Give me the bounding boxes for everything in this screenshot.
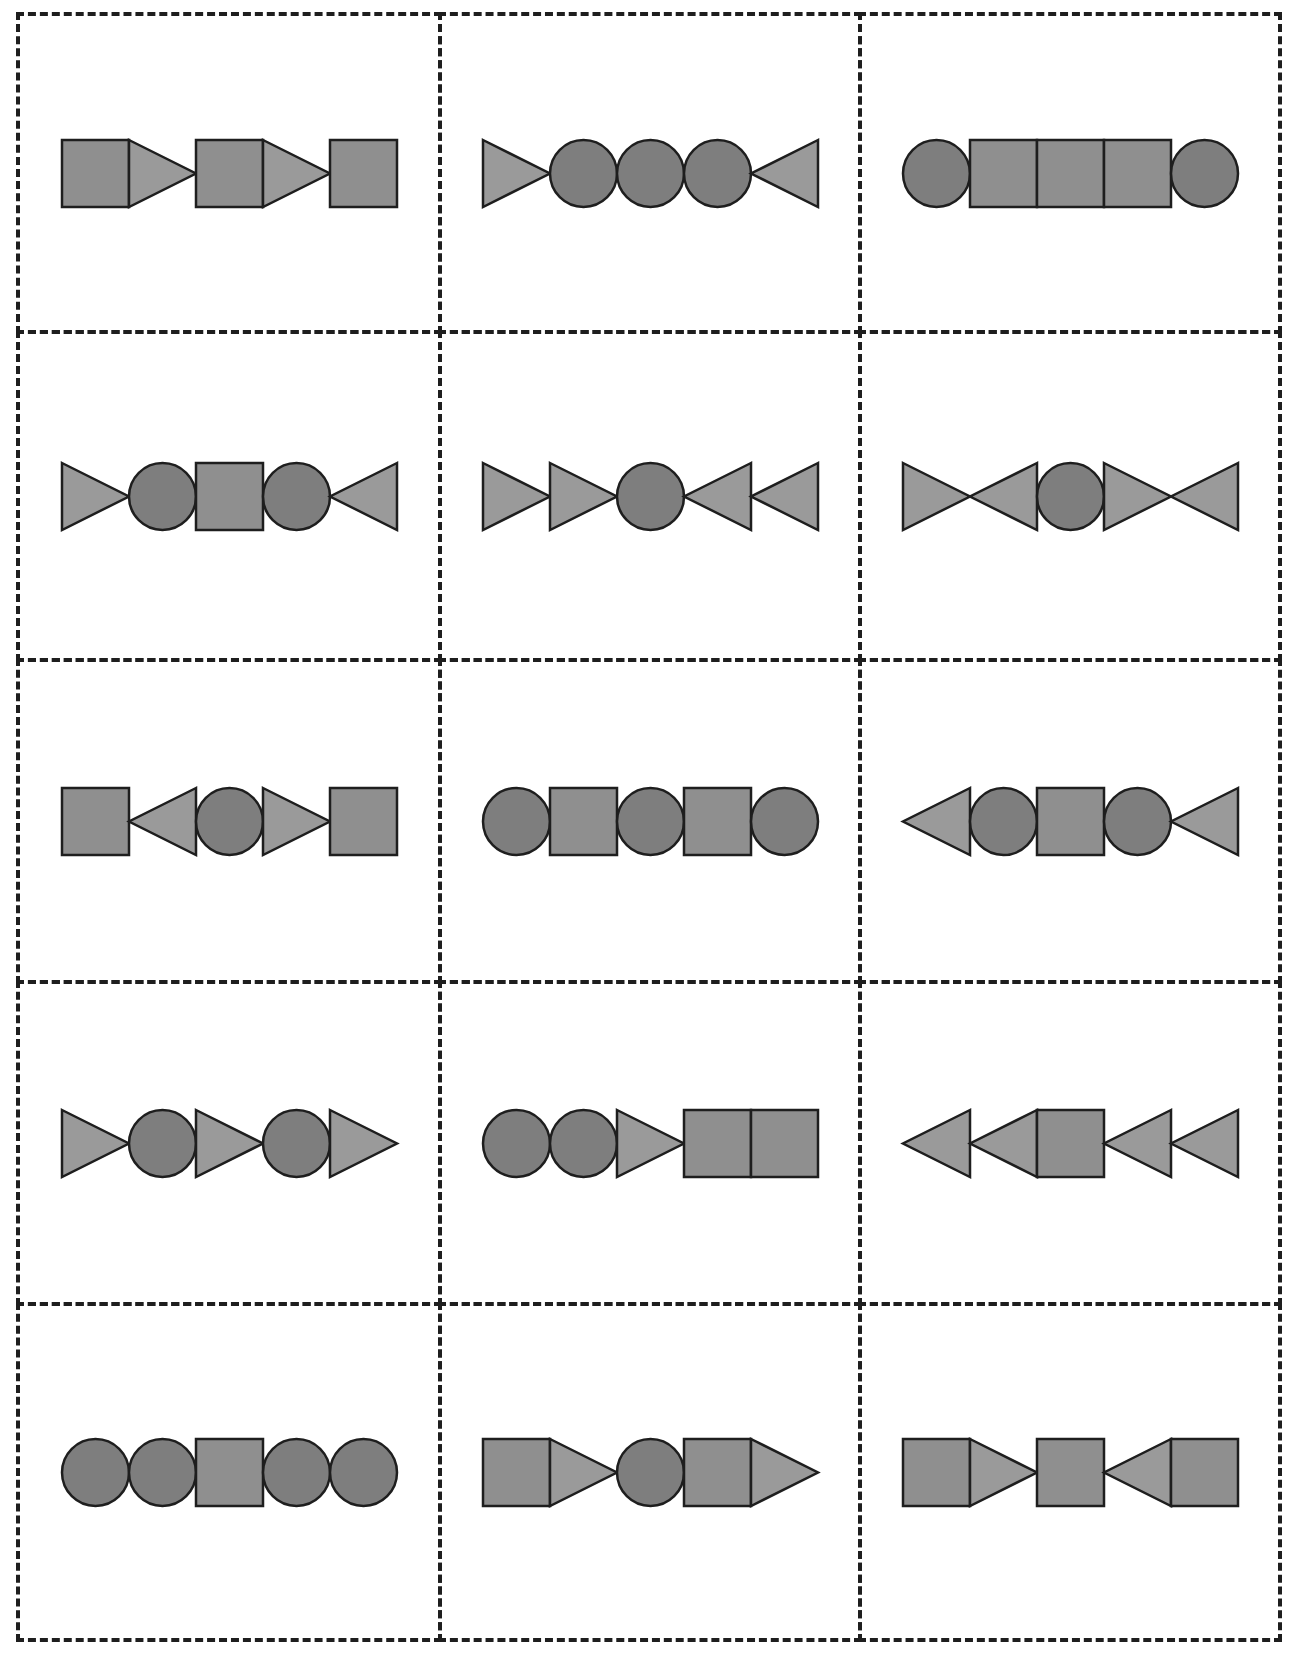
square-shape-icon: [62, 788, 129, 855]
square-shape-icon: [684, 1439, 751, 1506]
circle-shape-icon: [550, 1110, 617, 1177]
square-shape-icon: [970, 140, 1037, 207]
triangle-left-shape-icon: [1104, 1110, 1171, 1177]
triangle-right-shape-icon: [617, 1110, 684, 1177]
pattern-card[interactable]: [858, 658, 1282, 984]
shape-sequence: [901, 138, 1240, 209]
triangle-left-shape-icon: [684, 463, 751, 530]
pattern-card[interactable]: [16, 330, 442, 662]
triangle-right-shape-icon: [483, 140, 550, 207]
triangle-right-shape-icon: [62, 463, 129, 530]
circle-shape-icon: [483, 788, 550, 855]
shape-sequence: [481, 461, 820, 532]
shape-sequence: [481, 786, 820, 857]
shape-sequence: [901, 1108, 1240, 1179]
triangle-right-shape-icon: [129, 140, 196, 207]
triangle-right-shape-icon: [62, 1110, 129, 1177]
pattern-card[interactable]: [438, 658, 862, 984]
square-shape-icon: [751, 1110, 818, 1177]
circle-shape-icon: [617, 1439, 684, 1506]
square-shape-icon: [550, 788, 617, 855]
triangle-left-shape-icon: [1171, 463, 1238, 530]
square-shape-icon: [196, 1439, 263, 1506]
shape-sequence: [901, 1437, 1240, 1508]
pattern-card[interactable]: [858, 12, 1282, 334]
square-shape-icon: [1171, 1439, 1238, 1506]
pattern-card[interactable]: [858, 980, 1282, 1306]
triangle-left-shape-icon: [129, 788, 196, 855]
circle-shape-icon: [1104, 788, 1171, 855]
pattern-card[interactable]: [438, 980, 862, 1306]
shape-sequence: [481, 1437, 820, 1508]
circle-shape-icon: [617, 788, 684, 855]
circle-shape-icon: [903, 140, 970, 207]
pattern-card[interactable]: [16, 658, 442, 984]
circle-shape-icon: [129, 1110, 196, 1177]
square-shape-icon: [1037, 788, 1104, 855]
circle-shape-icon: [1037, 463, 1104, 530]
circle-shape-icon: [617, 140, 684, 207]
circle-shape-icon: [684, 140, 751, 207]
pattern-card[interactable]: [438, 1302, 862, 1642]
circle-shape-icon: [330, 1439, 397, 1506]
shape-sequence: [60, 1437, 399, 1508]
square-shape-icon: [1037, 1110, 1104, 1177]
square-shape-icon: [903, 1439, 970, 1506]
circle-shape-icon: [62, 1439, 129, 1506]
square-shape-icon: [330, 140, 397, 207]
triangle-left-shape-icon: [903, 788, 970, 855]
circle-shape-icon: [483, 1110, 550, 1177]
triangle-left-shape-icon: [970, 1110, 1037, 1177]
circle-shape-icon: [970, 788, 1037, 855]
circle-shape-icon: [196, 788, 263, 855]
triangle-right-shape-icon: [1104, 463, 1171, 530]
pattern-card[interactable]: [858, 1302, 1282, 1642]
triangle-right-shape-icon: [330, 1110, 397, 1177]
circle-shape-icon: [1171, 140, 1238, 207]
shape-sequence: [60, 461, 399, 532]
circle-shape-icon: [129, 1439, 196, 1506]
triangle-right-shape-icon: [263, 788, 330, 855]
circle-shape-icon: [263, 1110, 330, 1177]
triangle-right-shape-icon: [196, 1110, 263, 1177]
pattern-card[interactable]: [16, 980, 442, 1306]
circle-shape-icon: [263, 1439, 330, 1506]
square-shape-icon: [196, 463, 263, 530]
triangle-left-shape-icon: [1104, 1439, 1171, 1506]
pattern-card[interactable]: [438, 330, 862, 662]
shape-sequence: [481, 1108, 820, 1179]
triangle-right-shape-icon: [970, 1439, 1037, 1506]
shape-sequence: [60, 786, 399, 857]
square-shape-icon: [483, 1439, 550, 1506]
circle-shape-icon: [751, 788, 818, 855]
pattern-card[interactable]: [16, 12, 442, 334]
shape-sequence: [901, 786, 1240, 857]
square-shape-icon: [1104, 140, 1171, 207]
circle-shape-icon: [263, 463, 330, 530]
shape-sequence: [60, 1108, 399, 1179]
square-shape-icon: [684, 1110, 751, 1177]
triangle-right-shape-icon: [263, 140, 330, 207]
triangle-left-shape-icon: [1171, 788, 1238, 855]
triangle-right-shape-icon: [483, 463, 550, 530]
triangle-left-shape-icon: [970, 463, 1037, 530]
triangle-left-shape-icon: [330, 463, 397, 530]
square-shape-icon: [196, 140, 263, 207]
shape-sequence: [60, 138, 399, 209]
triangle-left-shape-icon: [751, 463, 818, 530]
shape-sequence: [481, 138, 820, 209]
pattern-card[interactable]: [16, 1302, 442, 1642]
circle-shape-icon: [550, 140, 617, 207]
circle-shape-icon: [129, 463, 196, 530]
square-shape-icon: [1037, 140, 1104, 207]
shape-sequence: [901, 461, 1240, 532]
triangle-left-shape-icon: [751, 140, 818, 207]
triangle-left-shape-icon: [1171, 1110, 1238, 1177]
square-shape-icon: [1037, 1439, 1104, 1506]
square-shape-icon: [62, 140, 129, 207]
pattern-card[interactable]: [438, 12, 862, 334]
square-shape-icon: [330, 788, 397, 855]
triangle-right-shape-icon: [903, 463, 970, 530]
triangle-right-shape-icon: [550, 1439, 617, 1506]
pattern-card[interactable]: [858, 330, 1282, 662]
